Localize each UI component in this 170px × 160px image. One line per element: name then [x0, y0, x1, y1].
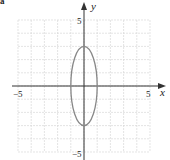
- y-tick-label-neg5: −5: [72, 149, 82, 159]
- x-axis-label: x: [159, 86, 165, 98]
- y-tick-label-5: 5: [77, 16, 82, 26]
- y-axis-label: y: [90, 0, 96, 12]
- axis-labels: y x −5 5 5 −5: [13, 0, 165, 159]
- y-axis-arrow-icon: [81, 2, 87, 10]
- axes: [12, 2, 166, 160]
- coordinate-plane-chart: y x −5 5 5 −5: [0, 0, 170, 160]
- x-tick-label-neg5: −5: [13, 89, 23, 99]
- x-tick-label-5: 5: [146, 89, 151, 99]
